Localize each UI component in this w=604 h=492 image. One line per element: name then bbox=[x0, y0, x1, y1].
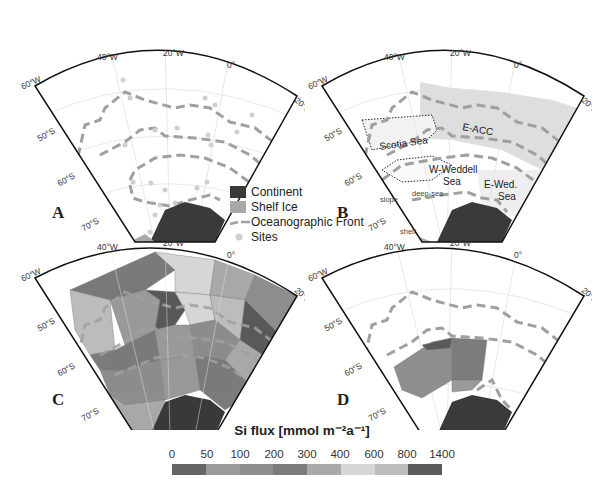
legend-item-shelf-ice: Shelf Ice bbox=[230, 199, 400, 214]
region-deep-sea: deep-sea bbox=[412, 189, 444, 198]
colorbar-bin-1 bbox=[206, 464, 240, 475]
svg-text:60°S: 60°S bbox=[56, 360, 77, 378]
region-w-weddell-sea: Sea bbox=[443, 176, 461, 187]
svg-text:40°W: 40°W bbox=[97, 242, 118, 252]
panel-d: 60°W 40°W 20°W 0° 20°E 50°S 60°S 70°S D bbox=[302, 230, 592, 430]
region-e-wed-sea: Sea bbox=[498, 191, 516, 202]
panel-label-c: C bbox=[52, 390, 64, 409]
svg-text:0°: 0° bbox=[514, 250, 522, 260]
svg-text:50°S: 50°S bbox=[36, 125, 57, 143]
svg-text:0°: 0° bbox=[227, 60, 235, 70]
map-c: 60°W 40°W 20°W 0° 20°E 50°S 60°S 70°S C bbox=[15, 230, 305, 430]
svg-text:0°: 0° bbox=[514, 60, 522, 70]
colorbar-title: Si flux [mmol m⁻²a⁻¹] bbox=[0, 422, 604, 438]
svg-text:60°S: 60°S bbox=[343, 360, 364, 378]
colorbar-ticks: 0 50 100 200 300 400 600 800 1400 bbox=[160, 448, 460, 462]
panel-label-a: A bbox=[52, 203, 65, 222]
legend-item-continent: Continent bbox=[230, 184, 400, 199]
panel-label-d: D bbox=[337, 390, 349, 409]
svg-text:70°S: 70°S bbox=[80, 405, 101, 423]
colorbar-bin-2 bbox=[240, 464, 274, 475]
svg-text:20°W: 20°W bbox=[163, 238, 184, 248]
svg-text:40°W: 40°W bbox=[384, 242, 405, 252]
colorbar-bin-6 bbox=[375, 464, 409, 475]
svg-text:70°S: 70°S bbox=[367, 405, 388, 423]
svg-text:50°S: 50°S bbox=[36, 315, 57, 333]
svg-text:20°W: 20°W bbox=[450, 238, 471, 248]
colorbar-bin-5 bbox=[341, 464, 375, 475]
svg-text:60°S: 60°S bbox=[56, 170, 77, 188]
region-w-weddell: W-Weddell bbox=[429, 164, 478, 175]
colorbar-bin-3 bbox=[273, 464, 307, 475]
colorbar-bin-4 bbox=[307, 464, 341, 475]
region-e-wed: E-Wed. bbox=[484, 179, 517, 190]
colorbar bbox=[172, 464, 442, 475]
svg-text:20°W: 20°W bbox=[450, 48, 471, 58]
svg-text:50°S: 50°S bbox=[323, 315, 344, 333]
svg-text:20°W: 20°W bbox=[163, 48, 184, 58]
panel-c: 60°W 40°W 20°W 0° 20°E 50°S 60°S 70°S C bbox=[15, 230, 305, 430]
map-d: 60°W 40°W 20°W 0° 20°E 50°S 60°S 70°S D bbox=[302, 230, 592, 430]
legend-item-front: Oceanographic Front bbox=[230, 214, 400, 229]
colorbar-bin-0 bbox=[172, 464, 206, 475]
svg-text:0°: 0° bbox=[227, 250, 235, 260]
colorbar-bin-7 bbox=[408, 464, 442, 475]
svg-text:50°S: 50°S bbox=[323, 125, 344, 143]
svg-text:40°W: 40°W bbox=[97, 52, 118, 62]
svg-text:40°W: 40°W bbox=[384, 52, 405, 62]
dash-line-icon bbox=[230, 216, 251, 228]
